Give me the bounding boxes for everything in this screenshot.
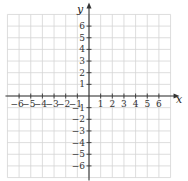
coordinate-plane: −6−5−4−3−2−1123456−6−5−4−3−2−1123456 x y: [0, 0, 188, 181]
x-tick-label: 4: [133, 99, 139, 109]
y-tick-label: −5: [72, 149, 86, 159]
x-tick-label: 1: [98, 99, 104, 109]
y-tick-label: −6: [72, 161, 86, 171]
y-tick-label: 5: [79, 33, 85, 43]
axes: [5, 2, 179, 180]
y-axis-arrow-icon: [87, 2, 92, 8]
y-tick-label: 4: [79, 44, 85, 54]
y-tick-label: 3: [79, 56, 85, 66]
y-tick-label: 1: [79, 79, 85, 89]
y-tick-label: −4: [72, 138, 86, 148]
x-tick-label: 5: [144, 99, 150, 109]
y-tick-label: −2: [72, 114, 85, 124]
x-axis-label: x: [176, 93, 183, 106]
y-axis-label: y: [76, 3, 84, 16]
y-tick-label: −1: [72, 103, 85, 113]
x-tick-label: 2: [109, 99, 115, 109]
x-tick-label: 3: [121, 99, 127, 109]
y-tick-label: 2: [79, 68, 85, 78]
x-tick-label: 6: [156, 99, 162, 109]
y-tick-label: 6: [79, 21, 85, 31]
y-tick-label: −3: [72, 126, 86, 136]
